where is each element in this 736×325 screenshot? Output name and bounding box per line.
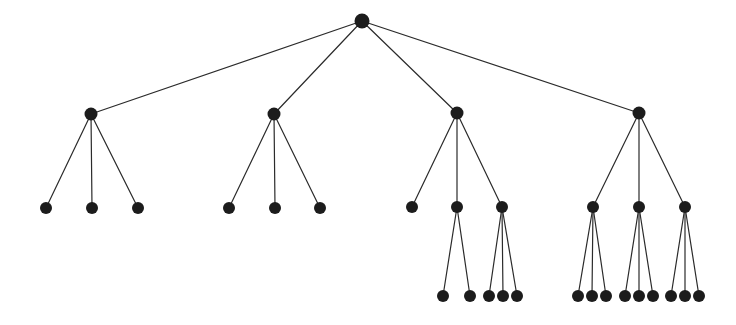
- tree-node[interactable]: [633, 290, 645, 302]
- tree-node[interactable]: [633, 201, 645, 213]
- tree-node[interactable]: [464, 290, 476, 302]
- tree-node[interactable]: [483, 290, 495, 302]
- tree-node[interactable]: [40, 202, 52, 214]
- tree-node[interactable]: [451, 201, 463, 213]
- tree-node[interactable]: [572, 290, 584, 302]
- tree-node[interactable]: [223, 202, 235, 214]
- tree-node[interactable]: [86, 202, 98, 214]
- tree-node[interactable]: [451, 107, 464, 120]
- tree-node[interactable]: [587, 201, 599, 213]
- tree-node[interactable]: [269, 202, 281, 214]
- tree-node[interactable]: [600, 290, 612, 302]
- figure-background: [0, 0, 736, 325]
- tree-diagram-figure: [0, 0, 736, 325]
- tree-node[interactable]: [619, 290, 631, 302]
- tree-node[interactable]: [679, 290, 691, 302]
- tree-node[interactable]: [586, 290, 598, 302]
- tree-node[interactable]: [647, 290, 659, 302]
- tree-node[interactable]: [665, 290, 677, 302]
- tree-node[interactable]: [132, 202, 144, 214]
- tree-node[interactable]: [633, 107, 646, 120]
- tree-node[interactable]: [268, 108, 281, 121]
- tree-node[interactable]: [406, 201, 418, 213]
- tree-node[interactable]: [693, 290, 705, 302]
- tree-node[interactable]: [437, 290, 449, 302]
- tree-diagram-canvas: [0, 0, 736, 325]
- tree-node[interactable]: [679, 201, 691, 213]
- tree-node[interactable]: [511, 290, 523, 302]
- tree-root-node[interactable]: [355, 14, 370, 29]
- tree-node[interactable]: [85, 108, 98, 121]
- tree-node[interactable]: [314, 202, 326, 214]
- tree-node[interactable]: [497, 290, 509, 302]
- tree-node[interactable]: [496, 201, 508, 213]
